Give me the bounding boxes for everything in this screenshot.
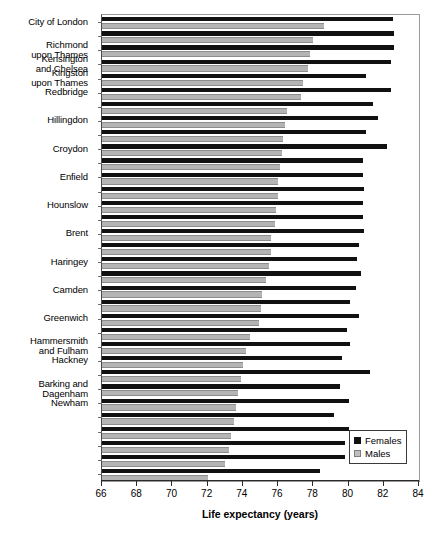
bar-group [102,340,419,354]
x-axis-tick-label: 68 [123,488,149,499]
bar-females [102,427,349,431]
bar-females [102,144,387,148]
x-axis-tick [171,481,172,486]
bar-females [102,441,345,445]
category-label-column: City of LondonRichmond upon ThamesKensin… [0,14,92,480]
legend: Females Males [349,430,407,464]
category-label: Hackney [52,355,88,365]
y-axis-tick [98,163,102,164]
x-axis-tick-label: 76 [264,488,290,499]
x-axis-tick-label: 82 [370,488,396,499]
bar-group [102,71,419,85]
bar-group [102,86,419,100]
bar-group [102,283,419,297]
bar-females [102,215,363,219]
x-axis-tick [418,481,419,486]
bar-group [102,354,419,368]
bar-females [102,455,345,459]
y-axis-tick [98,262,102,263]
bar-females [102,257,357,261]
bar-females [102,286,356,290]
x-axis-tick-label: 66 [88,488,114,499]
y-axis-tick [98,36,102,37]
bar-group [102,114,419,128]
bar-females [102,243,359,247]
category-label: Croydon [53,144,88,154]
y-axis-tick [98,474,102,475]
y-axis-tick [98,290,102,291]
y-axis-tick [98,460,102,461]
bar-group [102,170,419,184]
bar-females [102,314,359,318]
bar-females [102,60,391,64]
bar-group [102,128,419,142]
y-axis-tick [98,276,102,277]
x-axis-tick [312,481,313,486]
y-axis-tick [98,206,102,207]
y-axis-tick [98,333,102,334]
bar-females [102,384,340,388]
y-axis-tick [98,304,102,305]
category-label: Hounslow [47,200,88,210]
legend-item-females: Females [354,434,401,447]
bar-group [102,156,419,170]
bar-females [102,413,334,417]
bar-females [102,17,393,21]
bar-females [102,130,366,134]
bar-group [102,326,419,340]
y-axis-tick [98,149,102,150]
bar-females [102,328,347,332]
category-label: Brent [66,228,88,238]
y-axis-tick [98,79,102,80]
bar-group [102,199,419,213]
plot-area [101,14,420,482]
category-label: Barking and Dagenham [38,379,88,399]
bar-females [102,187,364,191]
y-axis-tick [98,135,102,136]
x-axis-tick-label: 72 [194,488,220,499]
bar-females [102,173,363,177]
bar-group [102,100,419,114]
bar-group [102,467,419,481]
x-axis-tick [207,481,208,486]
y-axis-tick [98,177,102,178]
bar-females [102,342,350,346]
y-axis-tick [98,389,102,390]
bar-females [102,370,370,374]
y-axis-tick [98,319,102,320]
bar-females [102,31,394,35]
bar-group [102,269,419,283]
bar-females [102,399,349,403]
x-axis-tick-label: 74 [229,488,255,499]
bar-females [102,201,363,205]
bar-group [102,142,419,156]
bar-females [102,356,342,360]
x-axis-title: Life expectancy (years) [101,508,419,520]
bar-group [102,410,419,424]
bar-group [102,184,419,198]
legend-swatch-males-icon [354,450,361,457]
y-axis-tick [98,22,102,23]
bar-group [102,297,419,311]
bar-group [102,29,419,43]
bar-group [102,15,419,29]
y-axis-tick [98,93,102,94]
y-axis-tick [98,347,102,348]
category-label: Hillingdon [47,115,88,125]
category-label: Hammersmith and Fulham [30,336,88,356]
bar-females [102,158,363,162]
category-label: Newham [51,398,88,408]
bar-group [102,396,419,410]
bar-females [102,74,366,78]
x-axis-tick-label: 84 [405,488,431,499]
bar-females [102,88,391,92]
bar-group [102,312,419,326]
category-label: Haringey [51,257,88,267]
x-axis-tick [101,481,102,486]
bar-group [102,255,419,269]
bar-group [102,241,419,255]
bar-group [102,227,419,241]
y-axis-tick [98,234,102,235]
y-axis-tick [98,192,102,193]
x-axis-tick [348,481,349,486]
